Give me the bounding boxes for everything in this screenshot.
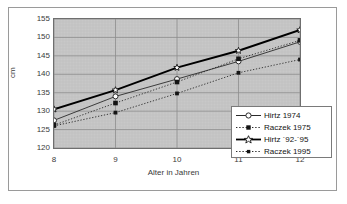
y-axis-tick-label: 155 <box>26 15 50 23</box>
legend-item-raczek-1975: Raczek 1975 <box>235 122 328 133</box>
x-axis-tick-label: 8 <box>39 155 69 165</box>
legend-item-hirtz-92-95: Hirtz ´92-´95 <box>235 134 328 145</box>
open-circle-marker-icon <box>235 110 262 121</box>
legend-label: Hirtz ´92-´95 <box>262 134 308 145</box>
y-axis-tick-label: 145 <box>26 52 50 60</box>
y-axis-tick-label: 140 <box>26 70 50 78</box>
y-axis-tick-label: 125 <box>26 126 50 134</box>
chart-legend: Hirtz 1974 Raczek 1975 Hirtz ´92-´95 <box>231 106 332 158</box>
y-axis-tick-label: 120 <box>26 144 50 152</box>
legend-label: Raczek 1995 <box>262 146 311 157</box>
filled-square-marker-icon <box>235 122 262 133</box>
x-axis-title: Alter in Jahren <box>0 168 347 177</box>
y-axis-tick-label: 135 <box>26 89 50 97</box>
small-filled-square-marker-icon <box>235 146 262 157</box>
legend-label: Hirtz 1974 <box>262 110 300 121</box>
y-axis-tick-label: 130 <box>26 107 50 115</box>
y-axis-tick-label: 150 <box>26 33 50 41</box>
x-axis-tick-label: 10 <box>162 155 192 165</box>
y-axis-title: cm <box>8 67 17 78</box>
legend-item-raczek-1995: Raczek 1995 <box>235 146 328 157</box>
x-axis-tick-label: 9 <box>101 155 131 165</box>
chart-container: 155150145140135130125120 cm 89101112 Alt… <box>0 0 347 204</box>
legend-item-hirtz-1974: Hirtz 1974 <box>235 110 328 121</box>
open-star-marker-icon <box>235 134 262 145</box>
legend-label: Raczek 1975 <box>262 122 311 133</box>
